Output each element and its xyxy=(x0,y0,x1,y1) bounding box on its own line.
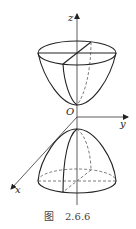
upper-front-meridian xyxy=(63,64,77,105)
figure-diagram: z O y x 图 2.6.6 xyxy=(0,0,136,229)
x-axis xyxy=(11,117,77,189)
caption-number: 2.6.6 xyxy=(65,211,90,222)
origin-label: O xyxy=(66,106,74,117)
lower-back-meridian xyxy=(77,129,91,170)
lower-right-profile xyxy=(77,129,116,181)
x-axis-label: x xyxy=(15,184,21,195)
y-axis-label: y xyxy=(119,118,126,129)
caption-prefix: 图 xyxy=(44,211,54,222)
upper-right-profile xyxy=(77,53,116,105)
z-axis-label: z xyxy=(67,12,74,23)
